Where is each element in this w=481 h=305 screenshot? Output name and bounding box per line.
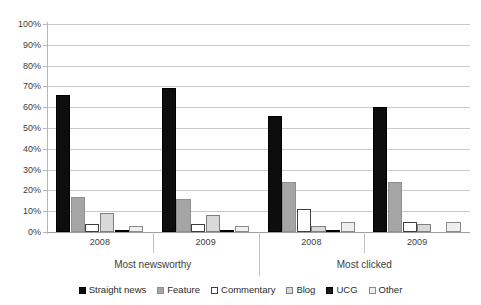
x-axis-categories: 2008200920082009Most newsworthyMost clic…: [47, 232, 470, 276]
legend-label: UCG: [336, 285, 357, 295]
x-tick-label: 2008: [259, 232, 365, 253]
y-tick-label: 10%: [0, 206, 41, 216]
bar-straight-news: [56, 95, 70, 232]
x-axis-year-row: 2008200920082009: [47, 232, 470, 253]
bar-feature: [71, 197, 85, 232]
bar-group: [153, 24, 259, 232]
bar-straight-news: [268, 116, 282, 232]
legend-label: Feature: [167, 285, 200, 295]
bar-other: [446, 222, 460, 232]
y-tick-label: 30%: [0, 165, 41, 175]
bar-straight-news: [162, 88, 176, 232]
chart-legend: Straight newsFeatureCommentaryBlogUCGOth…: [0, 281, 481, 299]
x-tick-label: 2009: [364, 232, 470, 253]
x-tick-label: 2008: [47, 232, 153, 253]
legend-swatch-icon: [79, 287, 86, 294]
bar-blog: [417, 224, 431, 232]
legend-item-ucg[interactable]: UCG: [326, 285, 357, 295]
legend-item-blog[interactable]: Blog: [286, 285, 315, 295]
y-tick-label: 20%: [0, 185, 41, 195]
legend-swatch-icon: [286, 287, 293, 294]
x-axis-group-label: Most newsworthy: [47, 253, 259, 276]
y-tick-label: 70%: [0, 81, 41, 91]
y-tick-label: 90%: [0, 40, 41, 50]
y-tick-label: 40%: [0, 144, 41, 154]
bar-blog: [100, 213, 114, 232]
x-axis-group-row: Most newsworthyMost clicked: [47, 253, 470, 276]
y-tick-label: 0%: [0, 227, 41, 237]
legend-item-feature[interactable]: Feature: [157, 285, 200, 295]
bar-feature: [388, 182, 402, 232]
legend-swatch-icon: [157, 287, 164, 294]
legend-item-commentary[interactable]: Commentary: [211, 285, 275, 295]
y-tick-label: 50%: [0, 123, 41, 133]
y-tick-label: 100%: [0, 19, 41, 29]
legend-swatch-icon: [326, 287, 333, 294]
bar-group: [364, 24, 470, 232]
legend-label: Blog: [296, 285, 315, 295]
bar-feature: [176, 199, 190, 232]
legend-swatch-icon: [211, 287, 218, 294]
bar-other: [341, 222, 355, 232]
bar-chart: 0%10%20%30%40%50%60%70%80%90%100% 200820…: [0, 0, 481, 305]
legend-item-other[interactable]: Other: [369, 285, 403, 295]
bar-blog: [206, 215, 220, 232]
bar-straight-news: [373, 107, 387, 232]
bar-commentary: [191, 224, 205, 232]
bar-groups: [47, 24, 470, 232]
x-tick-label: 2009: [153, 232, 259, 253]
x-axis-group-label: Most clicked: [259, 253, 471, 276]
bar-commentary: [403, 222, 417, 232]
y-tick-label: 80%: [0, 61, 41, 71]
bar-group: [259, 24, 365, 232]
legend-label: Other: [379, 285, 403, 295]
legend-label: Commentary: [221, 285, 275, 295]
legend-item-straight-news[interactable]: Straight news: [79, 285, 147, 295]
legend-swatch-icon: [369, 287, 376, 294]
bar-commentary: [85, 224, 99, 232]
bar-feature: [282, 182, 296, 232]
bar-commentary: [297, 209, 311, 232]
bar-group: [47, 24, 153, 232]
y-tick-label: 60%: [0, 102, 41, 112]
legend-label: Straight news: [89, 285, 147, 295]
